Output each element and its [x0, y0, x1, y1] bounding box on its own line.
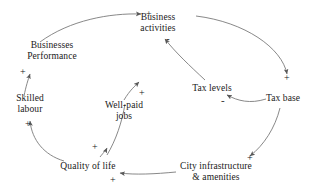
polarity-sign-cityinfra-in: +	[247, 153, 253, 163]
node-label-line: Tax base	[257, 93, 309, 104]
polarity-sign-qualityoflife-bottom: +	[110, 175, 116, 185]
polarity-sign-activities-left: +	[146, 9, 152, 19]
link-taxbase-to-cityinfra	[250, 108, 280, 156]
node-label-line: labour	[4, 104, 56, 115]
link-activities-to-taxbase	[196, 16, 287, 74]
link-qualityoflife-to-skilledlabour	[30, 121, 64, 161]
node-label-line: & amenities	[164, 172, 268, 183]
polarity-sign-activities-taxlevels: -	[166, 33, 170, 43]
node-quality-of-life[interactable]: Quality of life	[52, 161, 124, 172]
polarity-sign-taxbase-in: +	[284, 73, 290, 83]
node-skilled-labour[interactable]: Skilled labour	[4, 93, 56, 115]
node-label-line: Businesses	[6, 40, 98, 51]
link-taxlevels-to-activities	[165, 39, 205, 80]
polarity-sign-wellpaidjobs-out: +	[139, 88, 145, 98]
node-label-line: Tax levels	[182, 83, 242, 94]
node-label-line: activities	[128, 23, 188, 34]
link-wellpaidjobs-to-activities	[124, 82, 139, 100]
link-qualityoflife-to-wellpaidjobs-lower	[100, 148, 107, 157]
node-tax-levels[interactable]: Tax levels	[182, 83, 242, 94]
causal-loop-diagram: Business activities Businesses Performan…	[0, 0, 320, 195]
node-well-paid-jobs[interactable]: Well-paid jobs	[96, 100, 152, 122]
node-label-line: Business	[128, 12, 188, 23]
node-label-line: jobs	[96, 111, 152, 122]
node-label-line: Well-paid	[96, 100, 152, 111]
polarity-sign-taxlevels-in: -	[221, 95, 225, 105]
node-label-line: Skilled	[4, 93, 56, 104]
node-tax-base[interactable]: Tax base	[257, 93, 309, 104]
node-label-line: Quality of life	[52, 161, 124, 172]
node-label-line: Performance	[6, 51, 98, 62]
polarity-sign-qualityoflife-top: +	[92, 142, 98, 152]
polarity-sign-skilledlabour-in: +	[25, 119, 31, 129]
link-performance-to-activities	[40, 14, 141, 42]
node-business-activities[interactable]: Business activities	[128, 12, 188, 34]
node-businesses-performance[interactable]: Businesses Performance	[6, 40, 98, 62]
node-city-infrastructure[interactable]: City infrastructure & amenities	[164, 161, 268, 183]
polarity-sign-performance-in: +	[20, 67, 26, 77]
